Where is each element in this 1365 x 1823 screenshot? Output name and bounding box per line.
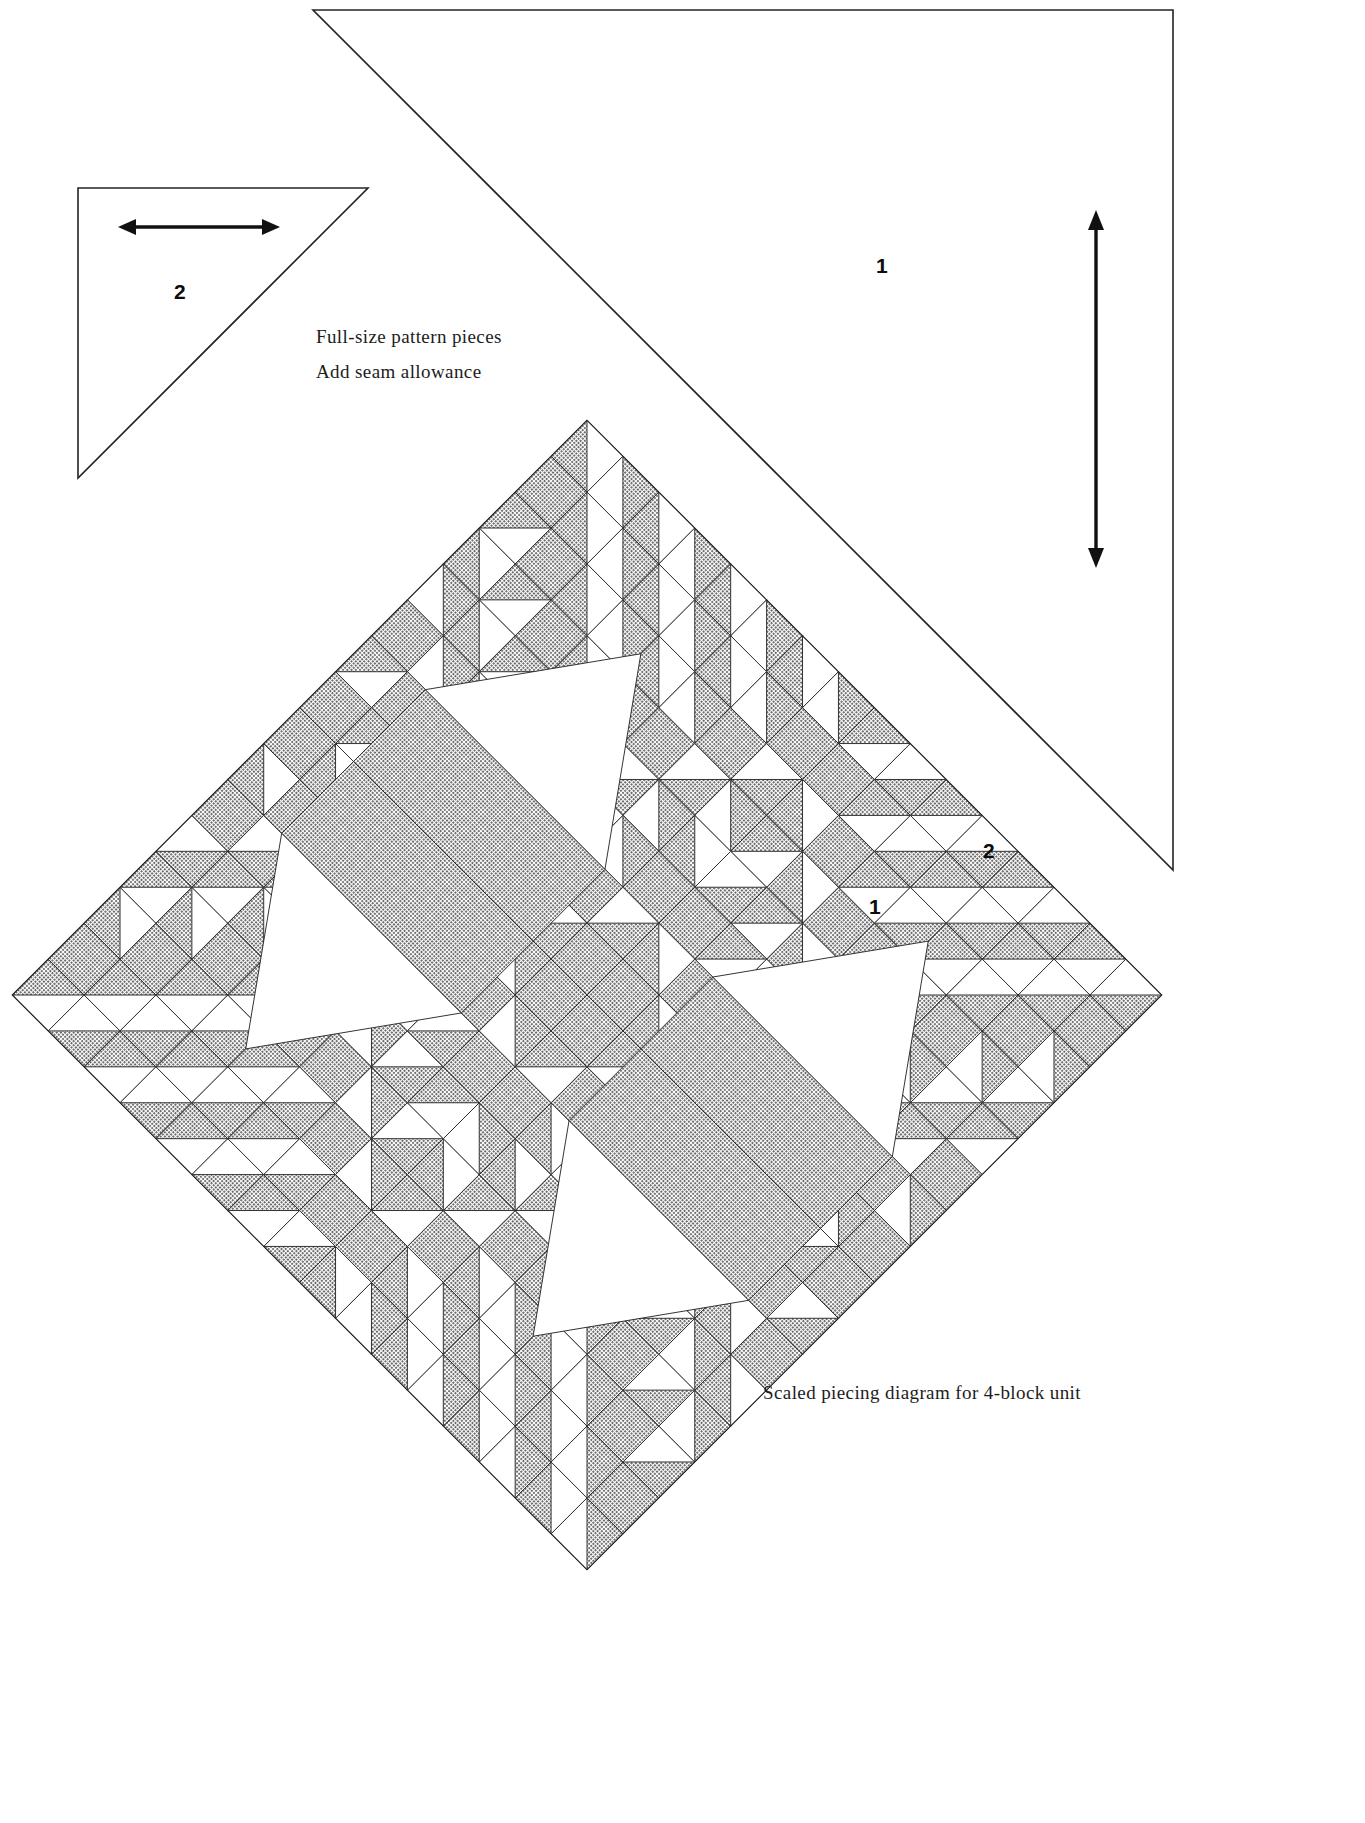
caption-add-seam-allowance: Add seam allowance — [316, 362, 481, 381]
pattern-sheet: Full-size pattern pieces Add seam allowa… — [0, 0, 1365, 1823]
pattern-piece-2-label: 2 — [174, 281, 186, 302]
diagram-label-1: 1 — [869, 896, 881, 917]
caption-scaled-piecing-diagram: Scaled piecing diagram for 4-block unit — [763, 1383, 1081, 1402]
diagram-label-2: 2 — [983, 840, 995, 861]
scaled-piecing-diagram — [0, 0, 1365, 1823]
caption-full-size-pattern-pieces: Full-size pattern pieces — [316, 327, 502, 346]
pattern-piece-1-label: 1 — [876, 255, 888, 276]
